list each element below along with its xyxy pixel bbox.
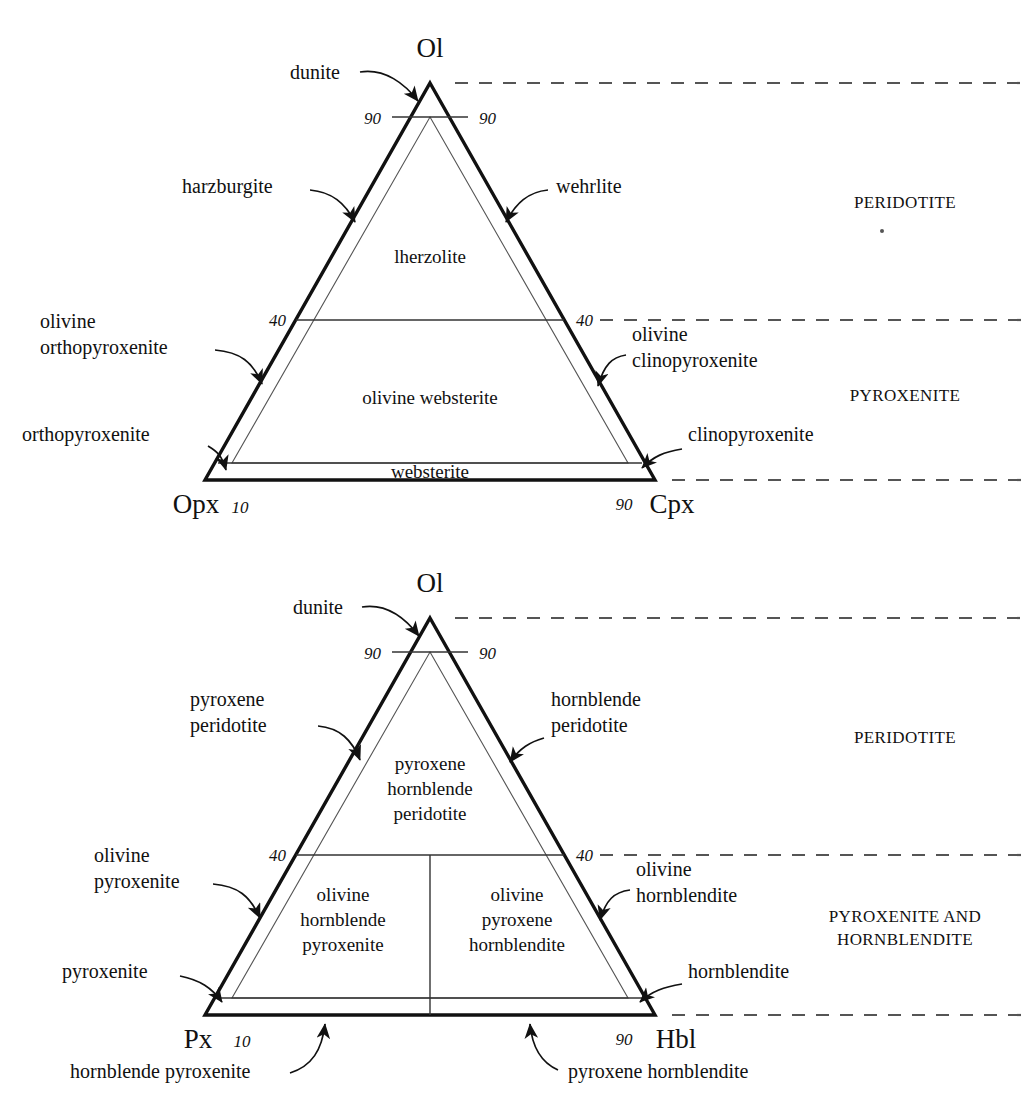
leader-dunite-top [360, 71, 418, 101]
leader-hornblende-peridotite [510, 738, 544, 762]
callout-label-olivine-pyroxenite-line1: olivine [94, 844, 150, 866]
callout-label-dunite-bottom: dunite [293, 596, 343, 618]
callout-label-pyroxene-peridotite-line1: pyroxene [190, 688, 265, 711]
tick-right-90-top: 90 [479, 109, 497, 128]
callout-label-pyroxenite-bottom: pyroxenite [62, 960, 148, 983]
vertex-label-ol-bottom: Ol [417, 568, 444, 598]
field-olivine-hornblende-pyroxenite-line1: olivine [317, 884, 370, 905]
tick-left-90-top: 90 [364, 109, 382, 128]
region-label-peridotite-top: PERIDOTITE [854, 193, 956, 212]
tick-bottom-10-top: 10 [232, 498, 250, 517]
field-pyroxene-hornblende-peridotite-line1: pyroxene [395, 753, 466, 774]
leader-olivine-hornblendite [600, 890, 630, 920]
leader-wehrlite [506, 190, 548, 222]
field-olivine-pyroxene-hornblendite-line2: pyroxene [482, 909, 553, 930]
field-websterite: websterite [391, 461, 469, 482]
field-olivine-websterite: olivine websterite [362, 387, 498, 408]
callout-label-hornblende-peridotite-line2: peridotite [551, 714, 628, 737]
callout-label-pyroxene-hornblendite: pyroxene hornblendite [568, 1060, 749, 1083]
inner-triangle-top [232, 117, 628, 463]
tick-right-40-top: 40 [576, 311, 594, 330]
callout-label-olivine-orthopyroxenite-line2: orthopyroxenite [40, 336, 168, 359]
callout-label-dunite-top: dunite [290, 61, 340, 83]
tick-left-90-bottom: 90 [364, 644, 382, 663]
callout-label-olivine-hornblendite-line2: hornblendite [636, 884, 737, 906]
callout-label-olivine-pyroxenite-line2: pyroxenite [94, 870, 180, 893]
callout-label-hornblende-pyroxenite: hornblende pyroxenite [70, 1060, 251, 1083]
callout-label-olivine-hornblendite-line1: olivine [636, 858, 692, 880]
leader-harzburgite [310, 190, 355, 222]
field-pyroxene-hornblende-peridotite-line3: peridotite [394, 803, 467, 824]
triangle-outline-top [205, 83, 655, 480]
callout-label-orthopyroxenite: orthopyroxenite [22, 423, 150, 446]
vertex-label-px: Px [184, 1024, 213, 1054]
field-pyroxene-hornblende-peridotite-line2: hornblende [387, 778, 472, 799]
vertex-label-hbl: Hbl [656, 1024, 697, 1054]
leader-olivine-clinopyroxenite [598, 355, 626, 386]
callout-label-olivine-orthopyroxenite-line1: olivine [40, 310, 96, 332]
leader-olivine-orthopyroxenite [215, 350, 262, 384]
tick-bottom-90-top: 90 [616, 495, 634, 514]
region-label-pyroxenite-hornblendite-line2: HORNBLENDITE [837, 930, 973, 949]
field-olivine-pyroxene-hornblendite-line3: hornblendite [469, 934, 565, 955]
region-label-peridotite-bottom: PERIDOTITE [854, 728, 956, 747]
leader-hornblende-pyroxenite [290, 1024, 325, 1073]
leader-dunite-bottom [362, 606, 419, 636]
field-olivine-hornblende-pyroxenite-line2: hornblende [300, 909, 385, 930]
region-label-pyroxenite-top: PYROXENITE [850, 386, 961, 405]
callout-label-hornblendite: hornblendite [688, 960, 789, 982]
tick-bottom-90-bottom: 90 [616, 1030, 634, 1049]
field-olivine-pyroxene-hornblendite-line1: olivine [491, 884, 544, 905]
field-olivine-hornblende-pyroxenite-line3: pyroxenite [302, 934, 383, 955]
callout-label-clinopyroxenite: clinopyroxenite [688, 423, 814, 446]
callout-label-pyroxene-peridotite-line2: peridotite [190, 714, 267, 737]
tick-left-40-bottom: 40 [269, 846, 287, 865]
ink-speck [880, 229, 884, 233]
vertex-label-opx: Opx [173, 489, 220, 519]
tick-right-90-bottom: 90 [479, 644, 497, 663]
vertex-label-cpx: Cpx [649, 489, 695, 519]
callout-label-olivine-clinopyroxenite-line2: clinopyroxenite [632, 349, 758, 372]
leader-olivine-pyroxenite [213, 884, 260, 918]
tick-left-40-top: 40 [269, 311, 287, 330]
ternary-panel-bottom: Ol Px Hbl 90 90 40 40 10 90 pyroxene hor… [62, 568, 1030, 1083]
callout-label-wehrlite: wehrlite [556, 175, 622, 197]
callout-label-harzburgite: harzburgite [182, 175, 273, 198]
callout-label-olivine-clinopyroxenite-line1: olivine [632, 323, 688, 345]
leader-pyroxene-hornblendite [530, 1024, 558, 1070]
figure-canvas: Ol Opx Cpx 90 90 40 40 10 90 lherzolite … [0, 0, 1036, 1111]
ternary-panel-top: Ol Opx Cpx 90 90 40 40 10 90 lherzolite … [22, 33, 1030, 519]
tick-right-40-bottom: 40 [576, 846, 594, 865]
region-label-pyroxenite-hornblendite-line1: PYROXENITE AND [829, 907, 981, 926]
field-lherzolite: lherzolite [394, 246, 466, 267]
tick-bottom-10-bottom: 10 [234, 1032, 252, 1051]
callout-label-hornblende-peridotite-line1: hornblende [551, 688, 641, 710]
vertex-label-ol-top: Ol [417, 33, 444, 63]
